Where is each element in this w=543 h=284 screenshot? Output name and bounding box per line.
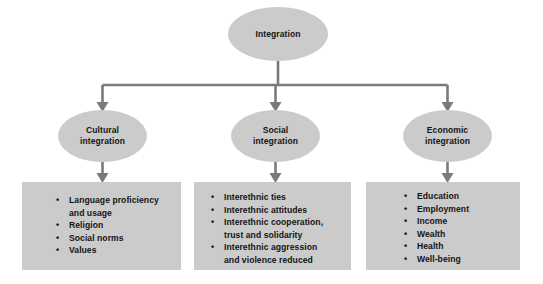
bullet-item-label: Health	[417, 241, 444, 251]
node-social-integration: Social integration	[231, 110, 320, 162]
bullet-item: •Language proficiency and usage	[56, 194, 181, 219]
outcome-box-economic: •Education•Employment•Income•Wealth•Heal…	[366, 182, 520, 270]
bullet-item: •Values	[56, 244, 181, 257]
outcome-box-social: •Interethnic ties•Interethnic attitudes•…	[194, 182, 351, 270]
bullet-item: •Income	[404, 215, 520, 228]
bullet-item-label: Values	[69, 245, 97, 255]
bullet-dot-icon: •	[404, 203, 407, 216]
outcome-box-cultural: •Language proficiency and usage•Religion…	[22, 182, 181, 270]
outcome-list-economic: •Education•Employment•Income•Wealth•Heal…	[366, 190, 520, 266]
bullet-item: •Health	[404, 240, 520, 253]
bullet-dot-icon: •	[211, 204, 214, 217]
bullet-item-label: Interethnic ties	[224, 192, 286, 202]
bullet-dot-icon: •	[56, 244, 59, 257]
node-cultural-integration-label: Cultural integration	[80, 125, 125, 146]
bullet-dot-icon: •	[211, 241, 214, 254]
outcome-list-cultural: •Language proficiency and usage•Religion…	[22, 194, 181, 257]
node-integration: Integration	[228, 7, 328, 61]
bullet-dot-icon: •	[404, 228, 407, 241]
bullet-item-label: Interethnic cooperation, trust and solid…	[224, 217, 323, 240]
bullet-item: •Interethnic attitudes	[211, 204, 351, 217]
bullet-item-label: Interethnic attitudes	[224, 205, 307, 215]
bullet-dot-icon: •	[404, 240, 407, 253]
bullet-item-label: Education	[417, 191, 459, 201]
bullet-item-label: Social norms	[69, 233, 124, 243]
bullet-dot-icon: •	[404, 253, 407, 266]
node-economic-integration-label: Economic integration	[425, 125, 470, 146]
bullet-item: •Education	[404, 190, 520, 203]
bullet-item-label: Wealth	[417, 229, 445, 239]
bullet-item: •Social norms	[56, 232, 181, 245]
bullet-item-label: Employment	[417, 204, 469, 214]
node-economic-integration: Economic integration	[403, 110, 492, 162]
bullet-dot-icon: •	[56, 232, 59, 245]
bullet-item-label: Religion	[69, 220, 103, 230]
bullet-item: •Interethnic aggression and violence red…	[211, 241, 351, 266]
diagram-canvas: Integration Cultural integration Social …	[0, 0, 543, 284]
bullet-dot-icon: •	[211, 191, 214, 204]
bullet-item-label: Interethnic aggression and violence redu…	[224, 242, 317, 265]
bullet-item: •Wealth	[404, 228, 520, 241]
bullet-dot-icon: •	[404, 190, 407, 203]
bullet-item: •Well-being	[404, 253, 520, 266]
node-social-integration-label: Social integration	[253, 125, 298, 146]
bullet-dot-icon: •	[56, 194, 59, 207]
bullet-dot-icon: •	[56, 219, 59, 232]
node-cultural-integration: Cultural integration	[58, 110, 147, 162]
bullet-item-label: Well-being	[417, 254, 461, 264]
bullet-item: •Religion	[56, 219, 181, 232]
bullet-item-label: Language proficiency and usage	[69, 195, 159, 218]
node-integration-label: Integration	[255, 29, 300, 40]
bullet-dot-icon: •	[211, 216, 214, 229]
bullet-item-label: Income	[417, 216, 447, 226]
bullet-dot-icon: •	[404, 215, 407, 228]
bullet-item: •Interethnic ties	[211, 191, 351, 204]
bullet-item: •Employment	[404, 203, 520, 216]
bullet-item: •Interethnic cooperation, trust and soli…	[211, 216, 351, 241]
outcome-list-social: •Interethnic ties•Interethnic attitudes•…	[194, 191, 351, 267]
